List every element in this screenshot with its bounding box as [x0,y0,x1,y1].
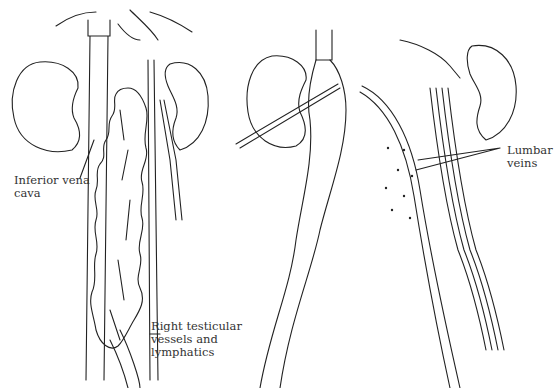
label-right-testicular-vessels: Right testicular vessels and lymphatics [151,320,242,359]
lymphatic-mass [91,88,148,348]
right-panel-drawing [236,30,516,388]
kidney-left-side-2 [247,56,306,148]
kidney-right-side-2 [467,45,516,140]
label-lumbar-veins: Lumbar veins [507,144,553,170]
kidney-left-side [12,62,79,152]
label-inferior-vena-cava: Inferior vena cava [14,174,90,200]
